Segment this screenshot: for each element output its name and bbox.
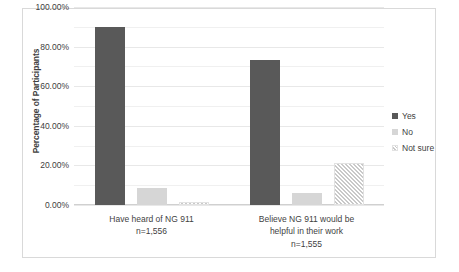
x-axis-label-line: helpful in their work: [229, 225, 384, 237]
x-axis-category-label: Believe NG 911 would behelpful in their …: [229, 213, 384, 250]
chart-legend: YesNoNot sure: [392, 108, 434, 156]
bar-yes: [250, 60, 280, 205]
bar-notsure: [334, 163, 364, 205]
bar-no: [292, 193, 322, 205]
x-axis-label-line: n=1,555: [229, 238, 384, 250]
legend-item[interactable]: No: [392, 124, 434, 140]
legend-item-label: Not sure: [402, 143, 434, 153]
gridline: [74, 7, 384, 8]
bar-no: [137, 188, 167, 205]
gridline: [74, 205, 384, 206]
legend-swatch-icon: [392, 145, 398, 151]
legend-swatch-icon: [392, 129, 398, 135]
legend-item-label: No: [402, 127, 413, 137]
x-axis-label-line: n=1,556: [74, 225, 229, 237]
x-axis-label-line: Have heard of NG 911: [74, 213, 229, 225]
legend-item[interactable]: Yes: [392, 108, 434, 124]
legend-item-label: Yes: [402, 111, 416, 121]
y-axis-tick-label: 80.00%: [40, 42, 69, 52]
legend-swatch-icon: [392, 113, 398, 119]
plot-area: 0.00%20.00%40.00%60.00%80.00%100.00%: [74, 7, 384, 205]
y-axis-tick-label: 100.00%: [35, 2, 69, 12]
x-axis-label-line: Believe NG 911 would be: [229, 213, 384, 225]
bar-notsure: [179, 202, 209, 205]
y-axis-tick-label: 0.00%: [45, 200, 69, 210]
y-axis-tick-label: 20.00%: [40, 160, 69, 170]
chart-container: Percentage of Participants 0.00%20.00%40…: [0, 0, 459, 272]
bar-yes: [95, 27, 125, 205]
x-axis-category-label: Have heard of NG 911n=1,556: [74, 213, 229, 238]
y-axis-tick-label: 60.00%: [40, 81, 69, 91]
y-axis-tick-label: 40.00%: [40, 121, 69, 131]
legend-item[interactable]: Not sure: [392, 140, 434, 156]
